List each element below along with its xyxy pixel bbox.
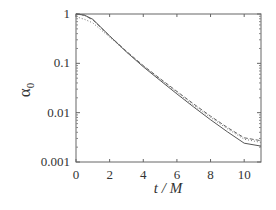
y-axis-ticks: 10.10.010.001 <box>41 6 261 169</box>
svg-text:α0: α0 <box>15 82 36 97</box>
series-solid-line <box>76 14 261 146</box>
x-tick-label: 10 <box>238 167 251 182</box>
series-layer <box>76 14 261 146</box>
x-tick-label: 2 <box>106 167 113 182</box>
plot-border <box>76 14 261 162</box>
x-tick-label: 8 <box>207 167 214 182</box>
x-tick-label: 4 <box>140 167 147 182</box>
x-axis-ticks: 0246810 <box>73 14 251 182</box>
y-tick-label: 0.001 <box>41 154 70 169</box>
series-dotted-line <box>76 17 261 143</box>
series-dashed-line <box>76 14 261 141</box>
x-tick-label: 0 <box>73 167 80 182</box>
plot-frame <box>76 14 261 162</box>
y-axis-label: α0 <box>15 82 36 97</box>
x-axis-label: t / M <box>154 180 184 196</box>
y-tick-label: 0.01 <box>47 105 70 120</box>
y-tick-label: 1 <box>64 6 71 21</box>
y-tick-label: 0.1 <box>54 55 70 70</box>
chart: 0246810 10.10.010.001 t / M α0 <box>0 0 276 210</box>
y-axis-label-main: α <box>15 88 34 97</box>
y-axis-label-sub: 0 <box>24 82 36 88</box>
